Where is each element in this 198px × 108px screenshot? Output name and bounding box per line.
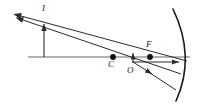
ray-reflected-down-right-tail (150, 73, 176, 90)
ray-reflected-down-right (133, 62, 152, 74)
ray-diagram-canvas (0, 0, 198, 108)
point-F-marker (147, 54, 153, 60)
label-focal-point-F: F (146, 40, 152, 49)
concave-mirror-arc (173, 9, 185, 101)
ray-lower-through-focus (23, 20, 181, 74)
label-center-of-curvature-C: C (108, 60, 114, 69)
label-object-O: O (127, 66, 134, 75)
ray-diagram-figure: I C F O (0, 0, 198, 108)
label-image-I: I (42, 4, 45, 13)
ray-upper-to-vertex (21, 16, 187, 61)
